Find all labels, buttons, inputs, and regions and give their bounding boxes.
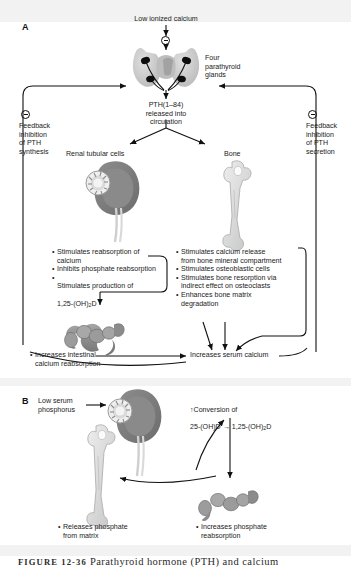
kidney-illustration-a — [86, 161, 139, 242]
label-increases-serum-calcium: Increases serum calcium — [190, 351, 290, 360]
kidney-effects-list: Stimulates reabsorption of calcium Inhib… — [52, 248, 157, 308]
arrow-to-bone-b — [120, 476, 216, 483]
releases-phosphate: Releases phosphate from matrix — [58, 523, 148, 540]
kidney-effect-1: Stimulates reabsorption of calcium — [52, 248, 157, 265]
label-four-parathyroid-glands: Four parathyroid glands — [205, 54, 265, 80]
kidney-illustration-b — [108, 389, 161, 476]
intestinal-effect-list: Increases intestinal calcium reabsorptio… — [30, 351, 110, 368]
kidney-effect-3-formula-post: D — [91, 300, 96, 308]
minus-circle-icon-top — [161, 36, 170, 45]
bone-effect-3: Stimulates bone resorption via indirect … — [176, 274, 300, 291]
bone-effect-1: Stimulates calcium release from bone min… — [176, 248, 300, 265]
intestine-illustration-b — [199, 491, 259, 521]
label-feedback-inhibition-secretion: Feedback inhibition of PTH secretion — [306, 122, 351, 156]
label-low-ionized-calcium: Low ionized calcium — [116, 15, 216, 24]
figure-caption-text: Parathyroid hormone (PTH) and calcium — [90, 556, 279, 567]
bone-effect-2: Stimulates osteoblastic cells — [176, 265, 300, 274]
releases-phosphate-list: Releases phosphate from matrix — [58, 523, 148, 540]
conversion-line1: ↑Conversion of — [190, 406, 237, 414]
arrow-pth-bone — [166, 128, 205, 144]
parathyroid-glands-illustration — [133, 48, 199, 99]
minus-circle-icon-left — [21, 110, 30, 119]
kidney-effect-3-line1: Stimulates production of — [57, 282, 133, 290]
figure-caption-label: FIGURE 12-36 — [18, 557, 87, 567]
minus-circle-icon-right — [308, 110, 317, 119]
label-renal-tubular-cells: Renal tubular cells — [66, 150, 156, 159]
conversion-formula-sub: 2 — [263, 425, 266, 431]
panel-a-letter: A — [22, 22, 29, 32]
increases-phosphate-list: Increases phosphate reabsorption — [196, 523, 296, 540]
arrow-bone-to-serum — [236, 336, 262, 351]
figure-panel: A Low ionized calcium Four parathyroid g… — [0, 0, 351, 570]
panel-b-letter: B — [22, 396, 29, 406]
kidney-effect-2: Inhibits phosphate reabsorption — [52, 265, 157, 274]
intestinal-effect: Increases intestinal calcium reabsorptio… — [30, 351, 110, 368]
arrow-pth-kidney — [130, 128, 166, 144]
bone-effects-list: Stimulates calcium release from bone min… — [176, 248, 300, 308]
bone-effect-4: Enhances bone matrix degradation — [176, 291, 300, 308]
bone-illustration-b — [87, 425, 115, 529]
bone-illustration-a — [223, 161, 251, 251]
figure-caption: FIGURE 12-36 Parathyroid hormone (PTH) a… — [18, 556, 336, 567]
kidney-effect-3-formula-pre: 1,25-(OH) — [57, 300, 89, 308]
label-conversion: ↑Conversion of 25-(OH)D → 1,25-(OH)2D — [190, 397, 310, 431]
conversion-formula-pre: 25-(OH)D → 1,25-(OH) — [190, 423, 263, 431]
conversion-formula-post: D — [266, 423, 271, 431]
label-bone: Bone — [224, 150, 264, 159]
kidney-effect-3: Stimulates production of 1,25-(OH)2D — [52, 274, 157, 308]
label-pth-released: PTH(1–84) released into circulation — [132, 101, 200, 127]
label-low-serum-phosphorus: Low serum phosphorus — [38, 397, 96, 414]
arrow-bone-vertical — [203, 322, 212, 350]
increases-phosphate: Increases phosphate reabsorption — [196, 523, 296, 540]
